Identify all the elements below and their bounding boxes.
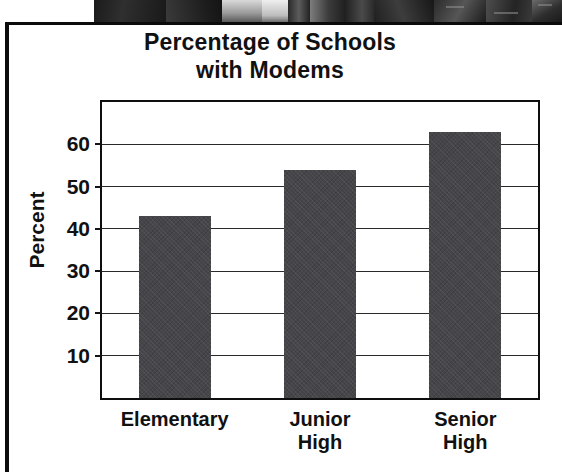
photo-segment	[166, 0, 222, 22]
y-axis-tick-label: 40	[30, 218, 90, 239]
photo-segment	[434, 0, 486, 22]
x-axis-tick-label: Elementary	[95, 408, 255, 431]
y-axis-tick-label: 60	[30, 133, 90, 154]
photo-speck	[494, 12, 518, 14]
photo-segment	[94, 0, 166, 22]
photo-speck	[538, 4, 552, 6]
bar	[429, 132, 501, 398]
y-axis-tick-label: 10	[30, 345, 90, 366]
chart-title: Percentage of Schools with Modems	[5, 28, 535, 84]
bar	[284, 170, 356, 398]
plot-inner	[102, 102, 538, 398]
y-axis-tick	[95, 270, 102, 272]
bar	[139, 216, 211, 398]
y-axis-tick-label: 50	[30, 176, 90, 197]
photo-segment	[262, 0, 288, 22]
photo-segment	[288, 0, 310, 22]
y-axis-tick	[95, 228, 102, 230]
photo-speck	[446, 6, 464, 8]
y-axis-tick	[95, 143, 102, 145]
photo-segment	[486, 0, 532, 22]
y-axis-tick	[95, 355, 102, 357]
y-axis-tick-label: 30	[30, 260, 90, 281]
x-axis-tick-label: Senior High	[385, 408, 545, 454]
photo-segment	[344, 0, 374, 22]
y-axis-tick	[95, 186, 102, 188]
y-axis-tick-label: 20	[30, 302, 90, 323]
photo-segment	[310, 0, 344, 22]
photo-segment	[222, 0, 262, 22]
y-axis-tick	[95, 312, 102, 314]
x-axis-tick-label: Junior High	[240, 408, 400, 454]
plot-area	[100, 100, 540, 400]
photo-segment	[374, 0, 434, 22]
chart-page: Percentage of Schools with Modems Percen…	[0, 0, 562, 472]
photo-strip	[94, 0, 562, 22]
